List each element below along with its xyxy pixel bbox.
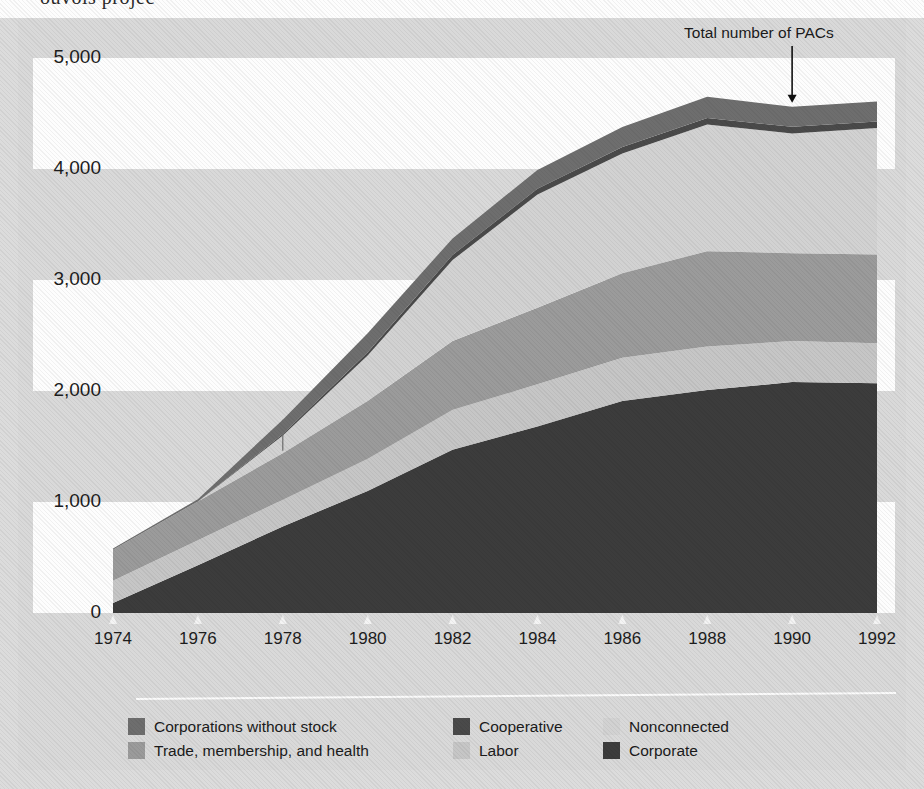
chart-board: 01,0002,0003,0004,0005,000 1974197619781… bbox=[18, 18, 906, 770]
legend-item-trade-membership-health[interactable]: Trade, membership, and health bbox=[128, 742, 453, 759]
y-axis-tick-label: 1,000 bbox=[18, 490, 101, 512]
legend-swatch bbox=[128, 718, 145, 735]
legend-swatch bbox=[128, 742, 145, 759]
x-axis-tick-label: 1982 bbox=[413, 629, 493, 649]
x-axis-tick-label: 1980 bbox=[328, 629, 408, 649]
figure-root: ouvois projec 01,0002,0003,0004,0005,000… bbox=[0, 0, 924, 789]
x-axis-tick-label: 1988 bbox=[667, 629, 747, 649]
y-axis-tick-label: 0 bbox=[18, 601, 101, 623]
legend-swatch bbox=[603, 718, 620, 735]
legend-label: Labor bbox=[479, 742, 519, 759]
legend-item-labor[interactable]: Labor bbox=[453, 742, 603, 759]
stacked-area-chart bbox=[18, 18, 906, 770]
clipped-page-heading: ouvois projec bbox=[0, 0, 924, 18]
y-axis-tick-label: 3,000 bbox=[18, 268, 101, 290]
legend-label: Cooperative bbox=[479, 718, 563, 735]
y-axis-tick-label: 4,000 bbox=[18, 157, 101, 179]
chart-legend: Corporations without stock Cooperative N… bbox=[128, 718, 918, 766]
legend-swatch bbox=[453, 742, 470, 759]
x-axis-tick-label: 1984 bbox=[497, 629, 577, 649]
legend-swatch bbox=[603, 742, 620, 759]
x-axis-tick-label: 1992 bbox=[837, 629, 917, 649]
x-axis-tick-label: 1978 bbox=[243, 629, 323, 649]
legend-row: Corporations without stock Cooperative N… bbox=[128, 718, 918, 735]
legend-item-cooperative[interactable]: Cooperative bbox=[453, 718, 603, 735]
legend-swatch bbox=[453, 718, 470, 735]
legend-label: Trade, membership, and health bbox=[154, 742, 369, 759]
legend-item-nonconnected[interactable]: Nonconnected bbox=[603, 718, 823, 735]
clipped-heading-text: ouvois projec bbox=[40, 0, 924, 9]
legend-item-corporate[interactable]: Corporate bbox=[603, 742, 823, 759]
x-axis-tick-label: 1976 bbox=[158, 629, 238, 649]
legend-label: Corporate bbox=[629, 742, 698, 759]
x-axis-tick-label: 1990 bbox=[752, 629, 832, 649]
legend-label: Corporations without stock bbox=[154, 718, 337, 735]
y-axis-tick-label: 2,000 bbox=[18, 379, 101, 401]
legend-label: Nonconnected bbox=[629, 718, 729, 735]
x-axis-tick-label: 1974 bbox=[73, 629, 153, 649]
y-axis-tick-label: 5,000 bbox=[18, 46, 101, 68]
legend-row: Trade, membership, and health Labor Corp… bbox=[128, 742, 918, 759]
legend-item-corporations-without-stock[interactable]: Corporations without stock bbox=[128, 718, 453, 735]
annotation-label: Total number of PACs bbox=[684, 24, 834, 42]
x-axis-tick-label: 1986 bbox=[582, 629, 662, 649]
